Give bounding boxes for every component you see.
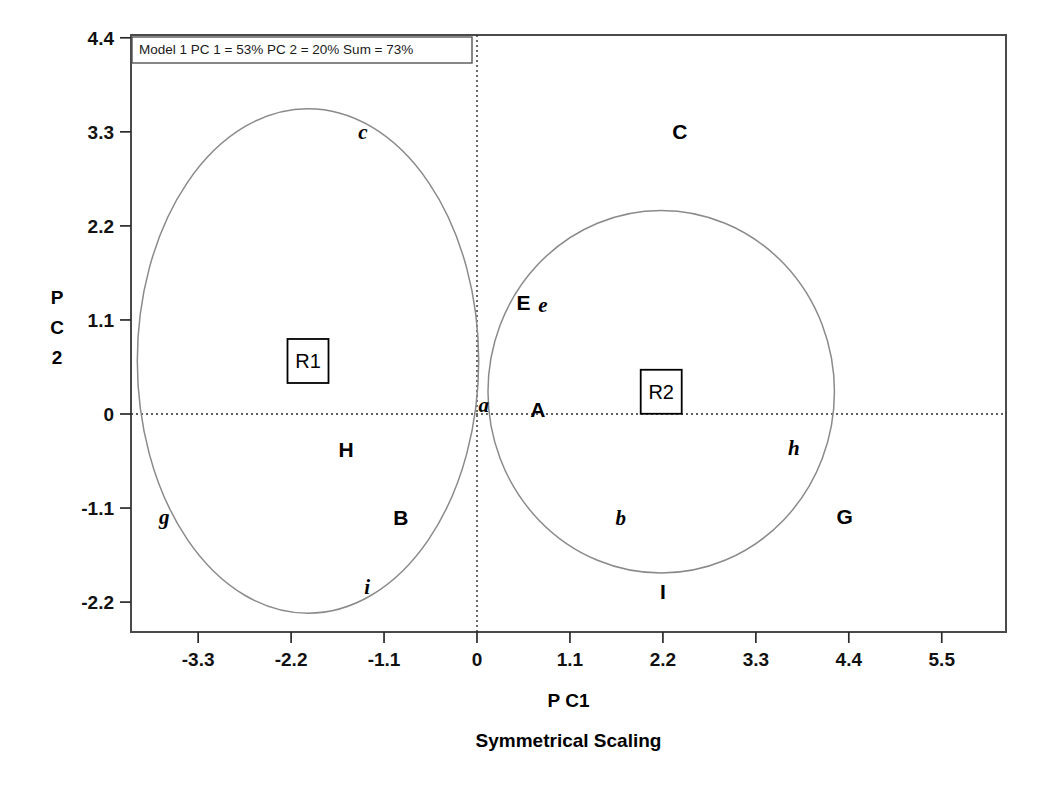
annotation-layer: Model 1 PC 1 = 53% PC 2 = 20% Sum = 73% [132,37,472,63]
data-point-label-H: H [338,438,353,461]
y-axis-title-char-0: P [51,287,64,308]
plot-frame-layer [131,35,1006,632]
y-tick-label: -1.1 [81,498,114,519]
region-ellipse-layer [137,109,834,613]
x-tick-label: 2.2 [650,649,676,670]
y-tick-label: 4.4 [88,28,115,49]
y-axis-title-char-1: C [50,317,64,338]
data-point-label-e: e [538,293,547,317]
axis-title-layer: P C1Symmetrical ScalingPC2 [50,287,661,751]
y-tick-label: 0 [103,404,114,425]
data-point-label-C: C [672,120,687,143]
axis-tick-layer: -3.3-2.2-1.101.12.23.34.45.54.43.32.21.1… [81,28,955,670]
region-box-label-r1: R1 [295,350,321,372]
reference-line-layer [131,35,1006,632]
pca-biplot: -3.3-2.2-1.101.12.23.34.45.54.43.32.21.1… [0,0,1048,788]
data-point-label-b: b [615,506,626,530]
data-point-label-g: g [158,505,170,529]
x-tick-label: 0 [472,649,483,670]
chart-canvas: -3.3-2.2-1.101.12.23.34.45.54.43.32.21.1… [0,0,1048,788]
data-point-label-E: E [516,291,530,314]
x-tick-label: 4.4 [836,649,863,670]
y-axis-title-char-2: 2 [52,347,63,368]
data-point-label-layer: cCEeaAHhgBbGiI [158,120,853,603]
x-tick-label: -1.1 [368,649,401,670]
y-tick-label: 1.1 [88,310,115,331]
x-tick-label: 1.1 [557,649,584,670]
y-tick-label: 2.2 [88,216,114,237]
model-annotation-text: Model 1 PC 1 = 53% PC 2 = 20% Sum = 73% [139,42,413,57]
y-tick-label: 3.3 [88,122,114,143]
data-point-label-G: G [836,505,852,528]
x-axis-title: P C1 [548,690,590,711]
x-tick-label: 5.5 [929,649,956,670]
data-point-label-B: B [393,506,408,529]
x-tick-label: -2.2 [275,649,308,670]
data-point-label-c: c [358,120,368,144]
plot-frame [131,35,1006,632]
data-point-label-A: A [530,398,545,421]
x-tick-label: -3.3 [182,649,215,670]
region-box-label-r2: R2 [648,381,674,403]
data-point-label-h: h [788,436,800,460]
x-tick-label: 3.3 [743,649,769,670]
data-point-label-a: a [479,393,490,417]
y-tick-label: -2.2 [81,592,114,613]
figure-caption: Symmetrical Scaling [476,730,662,751]
data-point-label-i: i [364,575,370,599]
data-point-label-I: I [660,580,666,603]
